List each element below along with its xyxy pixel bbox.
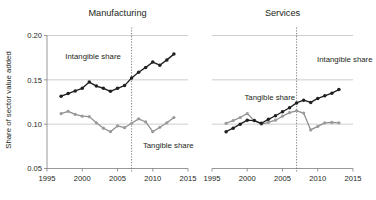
data-point-intangible-share-2010	[151, 60, 155, 64]
data-point-tangible-share-1997	[225, 122, 228, 125]
annotation-tangible-share-services: Tangible share	[244, 93, 295, 102]
data-point-intangible-share-2007	[295, 101, 299, 105]
data-point-intangible-share-2003	[102, 87, 106, 91]
data-point-intangible-share-2013	[337, 88, 341, 92]
data-point-tangible-share-2008	[302, 111, 305, 114]
data-point-intangible-share-2006	[123, 84, 127, 88]
data-point-tangible-share-2012	[330, 121, 333, 124]
data-point-intangible-share-2008	[137, 71, 141, 75]
x-tick-label-2005: 2005	[109, 174, 126, 183]
annotation-intangible-share-manufacturing: Intangible share	[65, 52, 120, 61]
data-point-tangible-share-2001	[88, 115, 91, 118]
data-point-intangible-share-2005	[281, 110, 285, 114]
x-tick-label-2010: 2010	[144, 174, 161, 183]
data-point-tangible-share-1997	[60, 112, 63, 115]
data-point-tangible-share-2003	[267, 121, 270, 124]
y-tick-label-0.10: 0.10	[27, 120, 42, 129]
data-point-intangible-share-2011	[323, 94, 327, 98]
x-tick-label-2000: 2000	[74, 174, 91, 183]
data-point-intangible-share-2012	[165, 58, 169, 62]
data-point-tangible-share-2004	[274, 119, 277, 122]
data-point-tangible-share-1999	[74, 113, 77, 116]
data-point-intangible-share-1998	[66, 92, 70, 96]
data-point-intangible-share-1999	[238, 122, 242, 126]
data-point-intangible-share-2013	[172, 52, 176, 56]
data-point-tangible-share-2010	[316, 125, 319, 128]
x-tick-label-1995: 1995	[39, 174, 56, 183]
data-point-tangible-share-2002	[95, 121, 98, 124]
annotation-intangible-share-services: Intangible share	[317, 55, 372, 64]
panel-title-manufacturing: Manufacturing	[88, 8, 146, 18]
x-tick-label-2000: 2000	[239, 174, 256, 183]
y-axis-title: Share of sector value added	[4, 51, 13, 149]
data-point-tangible-share-1999	[239, 116, 242, 119]
data-point-intangible-share-2008	[302, 98, 306, 102]
data-point-tangible-share-2003	[102, 127, 105, 130]
data-point-intangible-share-2001	[253, 119, 256, 123]
data-point-tangible-share-2010	[151, 130, 154, 133]
data-point-tangible-share-2004	[109, 130, 112, 133]
data-point-intangible-share-2004	[274, 114, 278, 118]
data-point-tangible-share-2009	[309, 128, 312, 131]
data-point-intangible-share-2006	[288, 106, 292, 110]
x-tick-label-2010: 2010	[309, 174, 326, 183]
data-point-tangible-share-2000	[81, 115, 84, 118]
x-tick-label-2015: 2015	[345, 174, 362, 183]
data-point-intangible-share-2004	[109, 90, 113, 94]
data-point-tangible-share-2013	[172, 116, 175, 119]
data-point-tangible-share-2012	[165, 121, 168, 124]
data-point-intangible-share-1997	[59, 94, 63, 98]
data-point-intangible-share-2011	[158, 63, 162, 67]
data-point-tangible-share-2011	[158, 126, 161, 129]
x-tick-label-2015: 2015	[180, 174, 197, 183]
data-point-intangible-share-2001	[88, 80, 92, 84]
data-point-tangible-share-2006	[123, 126, 126, 129]
y-tick-label-0.05: 0.05	[27, 164, 42, 173]
chart-canvas: Share of sector value added Manufacturin…	[0, 0, 376, 200]
data-point-intangible-share-1999	[73, 89, 77, 93]
panel-title-services: Services	[265, 8, 301, 18]
data-point-tangible-share-2006	[288, 111, 291, 114]
data-point-intangible-share-2003	[267, 118, 271, 122]
annotation-tangible-share-manufacturing: Tangible share	[143, 141, 194, 150]
data-point-intangible-share-2009	[309, 101, 313, 105]
data-point-intangible-share-2010	[316, 97, 320, 101]
data-point-intangible-share-2012	[330, 91, 334, 95]
data-point-tangible-share-2000	[246, 112, 249, 115]
data-point-tangible-share-1998	[232, 119, 235, 122]
data-point-intangible-share-2002	[260, 122, 264, 126]
data-point-intangible-share-2005	[116, 87, 120, 91]
chart-figure: Share of sector value added Manufacturin…	[0, 0, 376, 200]
data-point-tangible-share-2008	[137, 117, 140, 120]
data-point-tangible-share-2007	[295, 109, 298, 112]
data-point-tangible-share-2011	[323, 121, 326, 124]
data-point-tangible-share-2007	[130, 122, 133, 125]
data-point-intangible-share-2000	[81, 87, 85, 91]
x-tick-label-1995: 1995	[204, 174, 221, 183]
x-tick-label-2005: 2005	[274, 174, 291, 183]
data-point-intangible-share-1998	[231, 126, 235, 130]
y-tick-label-0.20: 0.20	[27, 31, 42, 40]
data-point-intangible-share-2009	[144, 66, 148, 70]
data-point-intangible-share-2002	[95, 84, 99, 88]
data-point-tangible-share-2005	[281, 115, 284, 118]
data-point-tangible-share-2009	[144, 120, 147, 123]
data-point-tangible-share-2013	[337, 121, 340, 124]
data-point-tangible-share-1998	[67, 110, 70, 113]
data-point-intangible-share-2000	[246, 118, 250, 122]
data-point-intangible-share-1997	[224, 130, 228, 134]
data-point-tangible-share-2005	[116, 124, 119, 127]
data-point-intangible-share-2007	[130, 76, 134, 80]
y-tick-label-0.15: 0.15	[27, 76, 42, 85]
